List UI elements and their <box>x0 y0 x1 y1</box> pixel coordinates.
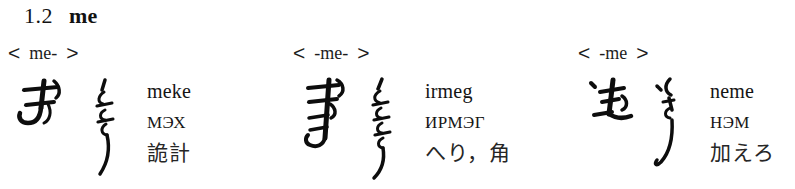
mongolian-script-neme-horizontal-icon <box>582 78 638 134</box>
gloss-cyrillic: мэх <box>147 107 191 138</box>
mongolian-script-irmeg-vertical-icon <box>363 76 403 180</box>
angle-bracket-close-icon: > <box>636 41 648 64</box>
gloss-latin: irmeg <box>425 76 510 107</box>
entry-column-initial: <me-> meke <box>0 40 270 189</box>
gloss-stack: neme нэм 加えろ <box>710 76 775 168</box>
gloss-stack: meke мэх 詭計 <box>147 76 191 168</box>
mongolian-script-neme-vertical-icon <box>646 76 686 176</box>
position-form-label: -me <box>599 43 627 63</box>
mongolian-script-meke-vertical-icon <box>88 76 128 180</box>
section-number: 1.2 <box>24 3 53 28</box>
gloss-latin: neme <box>710 76 775 107</box>
gloss-japanese: へり，角 <box>425 138 510 168</box>
gloss-japanese: 加えろ <box>710 138 775 168</box>
gloss-cyrillic: нэм <box>710 107 775 138</box>
position-header-final: <-me> <box>578 40 649 66</box>
entry-column-final: <-me> neme <box>570 40 795 189</box>
entry-row: neme нэм 加えろ <box>570 76 795 189</box>
gloss-stack: irmeg ирмэг へり，角 <box>425 76 510 168</box>
angle-bracket-open-icon: < <box>578 41 590 64</box>
entry-row: irmeg ирмэг へり，角 <box>285 76 555 189</box>
section-lemma: me <box>69 3 98 28</box>
angle-bracket-close-icon: > <box>357 41 369 64</box>
angle-bracket-open-icon: < <box>8 41 20 64</box>
page-title: 1.2me <box>24 1 98 31</box>
entry-row: meke мэх 詭計 <box>0 76 270 189</box>
position-form-label: me- <box>29 43 57 63</box>
mongolian-script-meke-horizontal-icon <box>14 78 74 140</box>
gloss-japanese: 詭計 <box>147 138 191 168</box>
gloss-cyrillic: ирмэг <box>425 107 510 138</box>
position-header-medial: <-me-> <box>293 40 370 66</box>
angle-bracket-open-icon: < <box>293 41 305 64</box>
mongolian-script-irmeg-horizontal-icon <box>299 78 355 150</box>
angle-bracket-close-icon: > <box>66 41 78 64</box>
position-form-label: -me- <box>314 43 348 63</box>
gloss-latin: meke <box>147 76 191 107</box>
position-header-initial: <me-> <box>8 40 79 66</box>
entry-column-medial: <-me-> <box>285 40 555 189</box>
